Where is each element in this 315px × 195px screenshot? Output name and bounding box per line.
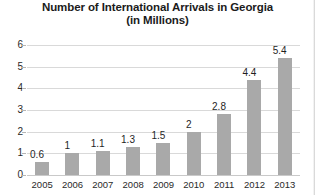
bar-value-label-2012: 4.4	[234, 67, 264, 78]
x-axis: 200520062007200820092010201120122013	[27, 179, 300, 193]
y-axis-label-0: 0	[3, 170, 23, 180]
y-axis-tick-3	[22, 110, 26, 111]
bar-2005[interactable]	[35, 162, 49, 175]
bar-group: 5.4	[270, 45, 300, 175]
y-axis-label-6: 6	[3, 40, 23, 50]
bar-group: 1.3	[118, 45, 148, 175]
y-axis-label-5: 5	[3, 62, 23, 72]
x-axis-label-2010: 2010	[179, 179, 209, 190]
bar-2012[interactable]	[247, 80, 261, 175]
bar-group: 1.5	[148, 45, 178, 175]
y-axis-label-3: 3	[3, 105, 23, 115]
bar-group: 2.8	[209, 45, 239, 175]
bar-value-label-2013: 5.4	[265, 45, 295, 56]
bar-2011[interactable]	[217, 114, 231, 175]
bar-2013[interactable]	[278, 58, 292, 175]
x-axis-label-2005: 2005	[27, 179, 57, 190]
y-axis-tick-4	[22, 88, 26, 89]
y-axis-label-2: 2	[3, 127, 23, 137]
bars-layer: 0.611.11.31.522.84.45.4	[27, 45, 300, 175]
y-axis-label-4: 4	[3, 83, 23, 93]
scan-edge-artifact	[313, 0, 315, 195]
bar-value-label-2007: 1.1	[83, 138, 113, 149]
bar-value-label-2005: 0.6	[22, 149, 52, 160]
x-axis-label-2012: 2012	[240, 179, 270, 190]
x-axis-label-2011: 2011	[209, 179, 239, 190]
y-axis-tick-2	[22, 132, 26, 133]
bar-group: 0.6	[27, 45, 57, 175]
bar-group: 1	[57, 45, 87, 175]
bar-2010[interactable]	[187, 132, 201, 175]
bar-2007[interactable]	[96, 151, 110, 175]
chart-title-block: Number of International Arrivals in Geor…	[0, 1, 315, 27]
chart-subtitle: (in Millions)	[0, 14, 315, 27]
bar-2006[interactable]	[65, 153, 79, 175]
gridline-0	[27, 175, 300, 176]
bar-value-label-2011: 2.8	[204, 101, 234, 112]
bar-chart: Number of International Arrivals in Geor…	[0, 0, 315, 195]
bar-group: 4.4	[239, 45, 269, 175]
x-axis-label-2008: 2008	[118, 179, 148, 190]
bar-value-label-2010: 2	[174, 119, 204, 130]
bar-2008[interactable]	[126, 147, 140, 175]
y-axis-tick-0	[22, 175, 26, 176]
bar-2009[interactable]	[156, 143, 170, 176]
chart-title: Number of International Arrivals in Geor…	[0, 1, 315, 14]
x-axis-label-2007: 2007	[88, 179, 118, 190]
y-axis: 0123456	[0, 45, 23, 175]
y-axis-label-1: 1	[3, 148, 23, 158]
y-axis-tick-6	[22, 45, 26, 46]
y-axis-tick-5	[22, 67, 26, 68]
bar-value-label-2006: 1	[52, 140, 82, 151]
x-axis-label-2013: 2013	[270, 179, 300, 190]
x-axis-label-2009: 2009	[149, 179, 179, 190]
x-axis-label-2006: 2006	[58, 179, 88, 190]
bar-value-label-2008: 1.3	[113, 134, 143, 145]
bar-group: 1.1	[88, 45, 118, 175]
bar-value-label-2009: 1.5	[143, 130, 173, 141]
